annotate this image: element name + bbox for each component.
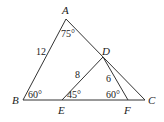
segment-ac	[66, 19, 145, 100]
vertex-label-f: F	[123, 104, 131, 116]
angle-label-a: 75°	[61, 28, 75, 39]
vertex-label-b: B	[12, 94, 19, 106]
vertex-label-e: E	[57, 104, 65, 116]
geometry-diagram: A B C D E F 12 8 6 75° 60° 45° 60°	[0, 0, 164, 122]
vertex-label-d: D	[101, 45, 110, 57]
length-label-ab: 12	[36, 46, 46, 57]
length-label-df: 6	[106, 73, 111, 84]
angle-label-e: 45°	[67, 89, 81, 100]
vertex-label-a: A	[61, 4, 69, 16]
segment-ab	[23, 19, 66, 100]
angle-label-f: 60°	[106, 89, 120, 100]
length-label-de: 8	[75, 69, 80, 80]
angle-label-b: 60°	[28, 89, 42, 100]
vertex-label-c: C	[148, 94, 156, 106]
